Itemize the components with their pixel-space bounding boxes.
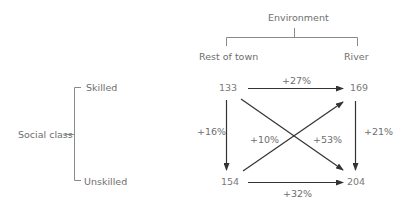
change-left-vertical: +16%	[197, 127, 226, 137]
value-skilled-river: 169	[350, 83, 368, 93]
row-label-unskilled: Unskilled	[84, 177, 127, 187]
change-right-vertical: +21%	[364, 127, 393, 137]
value-skilled-rest-of-town: 133	[219, 83, 237, 93]
change-bottom-horizontal: +32%	[283, 189, 312, 199]
column-label-river: River	[344, 52, 369, 62]
change-top-horizontal: +27%	[282, 76, 311, 86]
column-label-rest-of-town: Rest of town	[199, 52, 258, 62]
environment-bracket	[227, 28, 358, 46]
change-diagonal-up: +10%	[250, 135, 279, 145]
social-class-title: Social class	[18, 130, 73, 140]
value-unskilled-river: 204	[347, 177, 365, 187]
row-label-skilled: Skilled	[86, 83, 117, 93]
environment-title: Environment	[268, 13, 329, 23]
diagram-lines	[0, 0, 404, 205]
value-unskilled-rest-of-town: 154	[221, 177, 239, 187]
change-diagonal-down: +53%	[313, 135, 342, 145]
